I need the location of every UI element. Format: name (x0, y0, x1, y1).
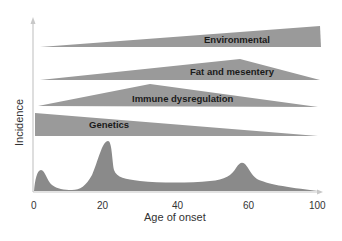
wedge-fat-mesentery: Fat and mesentery (40, 59, 320, 80)
wedge-shape (40, 59, 320, 80)
wedge-label-fat: Fat and mesentery (190, 66, 275, 77)
wedge-label-environmental: Environmental (204, 34, 270, 45)
x-axis-arrow-icon (317, 190, 323, 195)
y-axis-title: Incidence (13, 99, 25, 146)
incidence-diagram: Environmental Fat and mesentery Immune d… (0, 0, 342, 241)
wedge-genetics: Genetics (35, 113, 318, 136)
wedge-environmental: Environmental (40, 26, 321, 47)
y-axis-arrow-icon (31, 17, 36, 24)
x-tick-labels: 0 20 40 60 100 (31, 200, 326, 211)
wedge-immune: Immune dysregulation (38, 84, 318, 107)
incidence-curve (34, 141, 318, 191)
x-axis-title: Age of onset (144, 211, 206, 223)
x-tick-60: 60 (243, 200, 255, 211)
wedge-shape (40, 26, 321, 47)
wedge-label-genetics: Genetics (89, 119, 129, 130)
x-tick-20: 20 (97, 200, 109, 211)
x-tick-0: 0 (31, 200, 37, 211)
wedge-label-immune: Immune dysregulation (132, 93, 234, 104)
wedge-shape (35, 113, 318, 136)
x-tick-100: 100 (309, 200, 326, 211)
x-tick-40: 40 (172, 200, 184, 211)
